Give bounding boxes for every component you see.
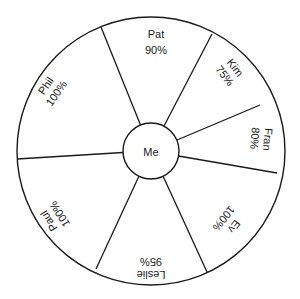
spoke-kim-fran [177, 105, 260, 140]
segment-value: 80% [248, 127, 262, 150]
segment-paul: Paul 100% [36, 199, 72, 236]
segment-leslie: Leslie 95% [137, 256, 166, 281]
segment-pat: Pat 90% [145, 28, 167, 56]
center-label: Me [143, 146, 158, 158]
relationship-wheel-diagram: Me Pat 90% Kim 75% Fran 80% Ev 100% Lesl… [0, 0, 300, 299]
segment-fran: Fran 80% [248, 126, 275, 151]
spoke-pat-kim [164, 34, 212, 126]
spoke-phil-pat [101, 27, 141, 125]
segment-value: 95% [140, 256, 162, 268]
segment-name: Fran [261, 128, 275, 152]
segment-ev: Ev 100% [210, 204, 247, 242]
spoke-leslie-paul [96, 176, 139, 269]
segment-name: Leslie [137, 269, 166, 281]
spoke-fran-ev [179, 156, 278, 173]
segment-kim: Kim 75% [213, 55, 246, 88]
segment-name: Pat [148, 28, 165, 40]
spoke-paul-phil [17, 153, 123, 160]
segment-phil: Phil 100% [33, 71, 70, 109]
spoke-ev-leslie [163, 176, 207, 272]
segment-value: 90% [145, 44, 167, 56]
